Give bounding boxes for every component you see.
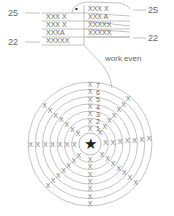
stitch-mark: X <box>88 193 93 200</box>
stitch-mark: X <box>70 126 75 133</box>
stitch-mark: X <box>88 103 93 110</box>
row-label-left-22: 22 <box>8 37 18 47</box>
stitch-mark: X <box>59 116 64 123</box>
stitch-mark: X <box>72 141 77 148</box>
stitch-mark: X <box>71 157 76 164</box>
stitch-mark: X <box>42 102 47 109</box>
stitch-mark: X <box>76 130 81 137</box>
stitch-mark: X <box>88 118 93 125</box>
round-number-label: 7 <box>96 82 100 89</box>
stitch-mark: X <box>88 163 93 170</box>
stitch-mark: X <box>133 179 138 186</box>
row-stitches-right-4: XXXXX <box>88 29 112 36</box>
stitch-mark: X <box>118 138 123 145</box>
crochet-diagram: 25 22 25 22 XXX X XXX X XXXA XXXXX XXX X… <box>0 0 174 216</box>
round-number-label: 5 <box>96 96 100 103</box>
stitch-mark: X <box>66 162 71 169</box>
stitch-mark: X <box>126 95 131 102</box>
round-number-label: 2 <box>96 118 100 125</box>
stitch-mark: X <box>88 96 93 103</box>
center-star-icon: ★ <box>84 135 97 152</box>
stitch-mark: X <box>125 137 130 144</box>
stitch-mark: X <box>77 152 82 159</box>
row-stitches-right-3: XXXXX <box>88 21 112 28</box>
stitch-mark: X <box>111 139 116 146</box>
stitch-mark: X <box>65 141 70 148</box>
stitch-mark: X <box>88 156 93 163</box>
row-label-right-25: 25 <box>148 5 158 15</box>
stitch-mark: X <box>88 81 93 88</box>
stitch-mark: X <box>53 112 58 119</box>
stitch-mark: X <box>88 178 93 185</box>
row-stitches-right-1: XXX X <box>88 5 109 12</box>
stitch-mark: X <box>51 177 56 184</box>
round-number-label: 4 <box>96 104 100 111</box>
round-chart: ★X1X2X3X4X5X6X7XXXXXXXXXXXXXXXXXXXXXXXXX… <box>28 81 152 207</box>
stitch-mark: X <box>50 141 55 148</box>
stitch-mark: X <box>111 160 116 167</box>
stitch-mark: X <box>43 141 48 148</box>
row-stitches-left-1: XXX X <box>46 13 67 20</box>
top-chart <box>25 2 146 88</box>
stitch-mark: X <box>103 139 108 146</box>
stitch-mark: X <box>128 174 133 181</box>
row-stitches-right-2: XXX A <box>88 13 109 20</box>
stitch-mark: X <box>88 110 93 117</box>
row-stitches-left-2: XXX X <box>46 21 67 28</box>
stitch-mark: X <box>147 135 152 142</box>
stitch-mark: X <box>28 141 33 148</box>
stitch-mark: X <box>88 185 93 192</box>
stitch-mark: X <box>88 125 93 132</box>
stitch-mark: X <box>65 121 70 128</box>
row-label-right-22: 22 <box>148 33 158 43</box>
stitch-mark: X <box>116 165 121 172</box>
row-stitches-left-4: XXXXX <box>46 37 70 44</box>
stitch-mark: X <box>88 88 93 95</box>
stitch-mark: X <box>46 182 51 189</box>
stitch-mark: X <box>88 200 93 207</box>
stitch-mark: X <box>132 137 137 144</box>
round-number-label: 3 <box>96 111 100 118</box>
stitch-mark: X <box>56 172 61 179</box>
stitch-mark: X <box>36 141 41 148</box>
round-number-label: 6 <box>96 89 100 96</box>
row-label-left-25: 25 <box>8 8 18 18</box>
stitch-mark: X <box>61 167 66 174</box>
stitch-mark: X <box>100 151 105 158</box>
stitch-mark: X <box>122 169 127 176</box>
stitch-mark: X <box>48 107 53 114</box>
row-stitches-left-3: XXXA <box>46 29 65 36</box>
stitch-mark: X <box>57 141 62 148</box>
work-even-note: work even <box>104 54 141 63</box>
marker-symbol: • <box>75 4 78 13</box>
stitch-mark: X <box>105 155 110 162</box>
stitch-mark: X <box>140 136 145 143</box>
stitch-mark: X <box>88 171 93 178</box>
